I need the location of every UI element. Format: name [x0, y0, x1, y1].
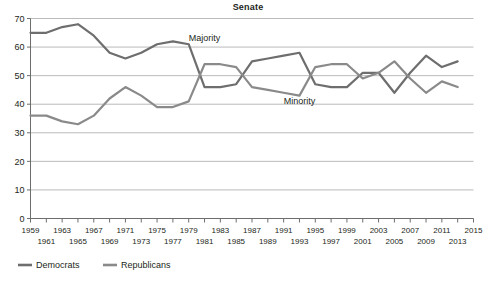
legend-label-democrats: Democrats: [36, 260, 80, 270]
x-tick-label-1961: 1961: [37, 237, 55, 246]
y-tick-label-70: 70: [14, 14, 24, 24]
x-tick-label-2003: 2003: [370, 226, 388, 235]
y-tick-label-60: 60: [14, 42, 24, 52]
chart-canvas: 0102030405060701959196319671971197519791…: [0, 0, 496, 282]
x-tick-label-1971: 1971: [117, 226, 135, 235]
x-tick-label-2005: 2005: [385, 237, 403, 246]
y-tick-label-30: 30: [14, 128, 24, 138]
x-tick-label-2009: 2009: [417, 237, 435, 246]
x-tick-label-1981: 1981: [196, 237, 214, 246]
x-tick-label-1973: 1973: [132, 237, 150, 246]
x-tick-label-1963: 1963: [53, 226, 71, 235]
y-tick-label-10: 10: [14, 185, 24, 195]
y-tick-label-0: 0: [19, 214, 24, 224]
x-tick-label-1987: 1987: [243, 226, 261, 235]
x-tick-label-1975: 1975: [148, 226, 166, 235]
x-tick-label-2013: 2013: [449, 237, 467, 246]
annotation-minority: Minority: [284, 96, 316, 106]
x-tick-label-1999: 1999: [338, 226, 356, 235]
x-tick-label-1989: 1989: [259, 237, 277, 246]
x-tick-label-1965: 1965: [69, 237, 87, 246]
x-tick-label-1993: 1993: [291, 237, 309, 246]
x-tick-label-1959: 1959: [22, 226, 40, 235]
annotation-majority: Majority: [189, 33, 221, 43]
x-tick-label-1997: 1997: [322, 237, 340, 246]
y-tick-label-40: 40: [14, 99, 24, 109]
x-tick-label-2007: 2007: [401, 226, 419, 235]
x-tick-label-1983: 1983: [211, 226, 229, 235]
x-tick-label-1985: 1985: [227, 237, 245, 246]
y-tick-label-20: 20: [14, 157, 24, 167]
x-tick-label-1969: 1969: [101, 237, 119, 246]
x-tick-label-2015: 2015: [465, 226, 483, 235]
x-tick-label-1995: 1995: [306, 226, 324, 235]
x-tick-label-2001: 2001: [354, 237, 372, 246]
x-tick-label-1977: 1977: [164, 237, 182, 246]
senate-seats-chart: Senate 010203040506070195919631967197119…: [0, 0, 496, 282]
y-tick-label-50: 50: [14, 71, 24, 81]
x-tick-label-1991: 1991: [275, 226, 293, 235]
legend-label-republicans: Republicans: [121, 260, 171, 270]
series-line-democrats: [31, 24, 458, 93]
x-tick-label-2011: 2011: [433, 226, 451, 235]
x-tick-label-1979: 1979: [180, 226, 198, 235]
x-tick-label-1967: 1967: [85, 226, 103, 235]
